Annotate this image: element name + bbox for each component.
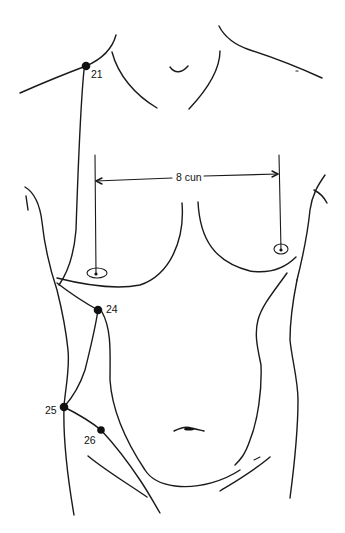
right-arm-outline: [297, 175, 325, 280]
right-groin-mark: [254, 457, 260, 460]
left-arm-outline-outer: [25, 187, 74, 515]
right-groin-line: [220, 457, 270, 491]
acupoint-26-label: 26: [84, 434, 96, 446]
acupoint-24-marker: [94, 306, 103, 315]
acupoint-21-marker: [82, 62, 91, 71]
acupoint-25-marker: [60, 403, 69, 412]
right-torso-inner: [235, 273, 287, 465]
torso-drawing: 21 24 25 26 8 cun: [0, 0, 345, 533]
measurement-label: 8 cun: [176, 171, 202, 183]
acupoint-26-marker: [97, 426, 105, 434]
left-flank-inner: [64, 310, 98, 407]
suprasternal-notch: [170, 66, 188, 72]
meridian-line-21-down: [59, 70, 84, 285]
left-arm-fold: [26, 196, 28, 210]
meridian-line-25-26: [64, 407, 160, 513]
left-nipple-vertical-line: [95, 155, 96, 273]
left-nipple-dot: [94, 272, 97, 275]
right-torso-outer: [290, 280, 298, 498]
left-neck-line: [112, 52, 157, 108]
meridian-line-to-24: [57, 283, 98, 310]
measurement-arrow-right: [204, 174, 278, 176]
navel-center: [184, 427, 194, 430]
right-nipple-vertical-line: [279, 155, 281, 250]
right-neck-line: [189, 51, 220, 109]
acupoint-24-label: 24: [106, 303, 118, 315]
abdomen-left-outline: [102, 312, 240, 487]
acupuncture-torso-diagram: 21 24 25 26 8 cun: [0, 0, 345, 533]
right-shoulder-line: [219, 26, 322, 78]
acupoint-21-label: 21: [91, 68, 103, 80]
right-armpit-fold: [314, 190, 327, 203]
left-shoulder-line: [20, 35, 116, 93]
right-nipple-dot: [279, 248, 282, 251]
acupoint-25-label: 25: [45, 404, 57, 416]
right-breast-outline: [198, 202, 296, 272]
measurement-arrow-left: [96, 178, 172, 181]
